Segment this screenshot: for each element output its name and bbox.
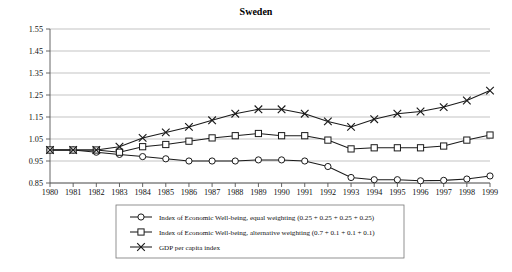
- data-point-marker: [255, 130, 261, 136]
- x-tick-label: 1986: [181, 188, 197, 197]
- data-point-marker: [232, 158, 238, 164]
- data-point-marker: [394, 145, 400, 151]
- y-tick-label: 0.95: [29, 157, 43, 166]
- x-tick-label: 1996: [412, 188, 428, 197]
- data-point-marker: [302, 133, 308, 139]
- x-tick-label: 1980: [42, 188, 58, 197]
- x-tick-label: 1984: [134, 188, 150, 197]
- data-point-marker: [487, 132, 493, 138]
- y-tick-label: 1.05: [29, 135, 43, 144]
- data-point-marker: [371, 145, 377, 151]
- y-tick-label: 0.85: [29, 179, 43, 188]
- data-point-marker: [464, 137, 470, 143]
- y-tick-label: 1.35: [29, 69, 43, 78]
- x-tick-label: 1991: [297, 188, 313, 197]
- data-point-marker: [348, 146, 354, 152]
- data-point-marker: [394, 177, 400, 183]
- data-point-marker: [163, 156, 169, 162]
- data-point-marker: [138, 229, 144, 235]
- data-point-marker: [348, 174, 354, 180]
- legend-item-2[interactable]: Index of Economic Well-being, alternativ…: [130, 229, 375, 237]
- x-tick-label: 1995: [389, 188, 405, 197]
- data-point-marker: [278, 157, 284, 163]
- x-tick-label: 1990: [273, 188, 289, 197]
- legend-item-3[interactable]: GDP per capita index: [130, 243, 220, 251]
- data-point-marker: [441, 143, 447, 149]
- data-point-marker: [441, 177, 447, 183]
- x-tick-label: 1983: [111, 188, 127, 197]
- data-point-marker: [186, 138, 192, 144]
- data-point-marker: [371, 177, 377, 183]
- x-tick-label: 1989: [250, 188, 266, 197]
- data-point-marker: [464, 176, 470, 182]
- legend-item-1[interactable]: Index of Economic Well-being, equal weig…: [130, 214, 375, 222]
- x-tick-label: 1985: [158, 188, 174, 197]
- data-point-marker: [138, 214, 144, 220]
- data-point-marker: [255, 157, 261, 163]
- chart-figure: Sweden 1.551.451.351.251.151.050.950.85 …: [0, 0, 512, 272]
- data-point-marker: [209, 135, 215, 141]
- chart-title: Sweden: [240, 6, 273, 17]
- data-point-marker: [417, 178, 423, 184]
- legend-label: Index of Economic Well-being, alternativ…: [159, 229, 375, 237]
- x-tick-label: 1992: [320, 188, 336, 197]
- data-point-marker: [140, 154, 146, 160]
- x-tick-label: 1982: [88, 188, 104, 197]
- x-tick-label: 1988: [227, 188, 243, 197]
- data-point-marker: [232, 133, 238, 139]
- x-tick-label: 1998: [459, 188, 475, 197]
- y-tick-label: 1.25: [29, 91, 43, 100]
- legend-label: GDP per capita index: [159, 244, 220, 252]
- x-tick-label: 1994: [366, 188, 382, 197]
- y-tick-label: 1.15: [29, 113, 43, 122]
- y-tick-label: 1.55: [29, 25, 43, 34]
- legend-label: Index of Economic Well-being, equal weig…: [159, 214, 375, 222]
- data-point-marker: [487, 173, 493, 179]
- x-tick-label: 1993: [343, 188, 359, 197]
- data-point-marker: [116, 149, 122, 155]
- data-point-marker: [186, 158, 192, 164]
- data-point-marker: [325, 163, 331, 169]
- data-point-marker: [325, 137, 331, 143]
- x-tick-label: 1999: [482, 188, 498, 197]
- data-point-marker: [278, 133, 284, 139]
- x-tick-label: 1987: [204, 188, 220, 197]
- x-tick-label: 1981: [65, 188, 81, 197]
- data-point-marker: [417, 145, 423, 151]
- data-point-marker: [140, 144, 146, 150]
- data-point-marker: [209, 158, 215, 164]
- data-point-marker: [163, 141, 169, 147]
- y-tick-label: 1.45: [29, 47, 43, 56]
- x-tick-label: 1997: [435, 188, 451, 197]
- data-point-marker: [302, 158, 308, 164]
